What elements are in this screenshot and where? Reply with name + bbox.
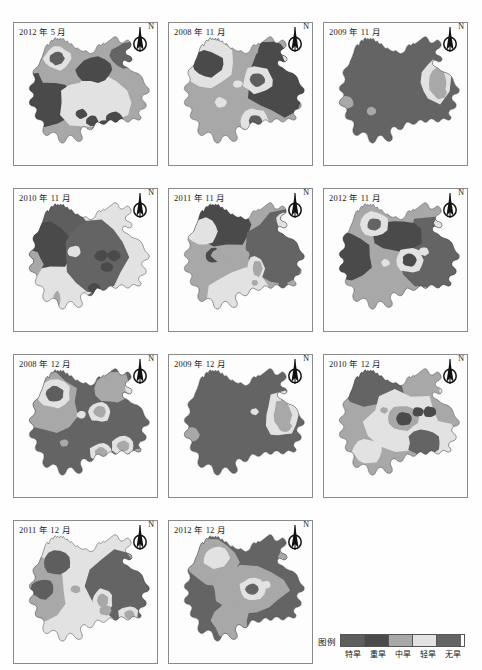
north-arrow-label: N xyxy=(458,189,464,197)
legend-swatches: 特旱重旱中旱轻旱无旱 xyxy=(340,634,465,659)
panel-date-label: 2011 年 11 月 xyxy=(174,191,225,203)
panel-date-label: 2012 年 12 月 xyxy=(174,523,226,535)
legend-swatch-5 xyxy=(437,635,461,646)
north-arrow-compass-icon: N xyxy=(129,356,153,386)
map-panel-p11: 2012 年 12 月N xyxy=(168,520,313,664)
map-panel-p4: 2010 年 11 月N xyxy=(13,188,158,332)
north-arrow-compass-icon: N xyxy=(439,190,463,220)
map-panel-p3: 2009 年 11 月N xyxy=(323,22,468,166)
north-arrow-label: N xyxy=(148,355,154,363)
north-arrow-label: N xyxy=(458,23,464,31)
north-arrow-label: N xyxy=(303,355,309,363)
map-panel-p9: 2010 年 12 月N xyxy=(323,354,468,498)
map-panel-p10: 2011 年 12 月N xyxy=(13,520,158,664)
drought-map-figure: 2012 年 5 月N2008 年 11 月N2009 年 11 月N2010 … xyxy=(0,0,482,670)
panel-date-label: 2008 年 12 月 xyxy=(19,357,71,369)
panel-date-label: 2008 年 11 月 xyxy=(174,25,226,37)
legend-label-1: 特旱 xyxy=(340,648,365,659)
north-arrow-compass-icon: N xyxy=(129,522,153,552)
legend-label-2: 重旱 xyxy=(365,648,390,659)
legend-label-4: 轻旱 xyxy=(415,648,440,659)
north-arrow-label: N xyxy=(303,23,309,31)
panel-date-label: 2009 年 11 月 xyxy=(329,25,381,37)
north-arrow-compass-icon: N xyxy=(284,190,308,220)
legend-swatch-3 xyxy=(389,635,413,646)
north-arrow-label: N xyxy=(303,189,309,197)
north-arrow-label: N xyxy=(148,23,154,31)
north-arrow-label: N xyxy=(148,189,154,197)
panel-date-label: 2012 年 11 月 xyxy=(329,191,381,203)
north-arrow-label: N xyxy=(148,521,154,529)
panel-date-label: 2012 年 5 月 xyxy=(19,25,67,37)
legend-swatch-4 xyxy=(413,635,437,646)
north-arrow-compass-icon: N xyxy=(284,356,308,386)
north-arrow-label: N xyxy=(458,355,464,363)
legend: 图例 特旱重旱中旱轻旱无旱 xyxy=(318,634,465,659)
north-arrow-label: N xyxy=(303,521,309,529)
panel-date-label: 2009 年 12 月 xyxy=(174,357,226,369)
map-panel-p2: 2008 年 11 月N xyxy=(168,22,313,166)
legend-swatch-2 xyxy=(365,635,389,646)
north-arrow-compass-icon: N xyxy=(129,190,153,220)
map-panel-p8: 2009 年 12 月N xyxy=(168,354,313,498)
panel-date-label: 2010 年 11 月 xyxy=(19,191,71,203)
map-panel-p5: 2011 年 11 月N xyxy=(168,188,313,332)
map-panel-p7: 2008 年 12 月N xyxy=(13,354,158,498)
legend-labels: 特旱重旱中旱轻旱无旱 xyxy=(340,648,465,659)
panel-date-label: 2010 年 12 月 xyxy=(329,357,381,369)
north-arrow-compass-icon: N xyxy=(284,24,308,54)
map-panel-p6: 2012 年 11 月N xyxy=(323,188,468,332)
north-arrow-compass-icon: N xyxy=(284,522,308,552)
legend-label-5: 无旱 xyxy=(440,648,465,659)
legend-title: 图例 xyxy=(318,634,336,647)
north-arrow-compass-icon: N xyxy=(439,24,463,54)
north-arrow-compass-icon: N xyxy=(439,356,463,386)
legend-swatch-row xyxy=(340,634,465,647)
map-panel-p1: 2012 年 5 月N xyxy=(13,22,158,166)
panel-date-label: 2011 年 12 月 xyxy=(19,523,71,535)
legend-label-3: 中旱 xyxy=(390,648,415,659)
north-arrow-compass-icon: N xyxy=(129,24,153,54)
legend-swatch-1 xyxy=(341,635,365,646)
